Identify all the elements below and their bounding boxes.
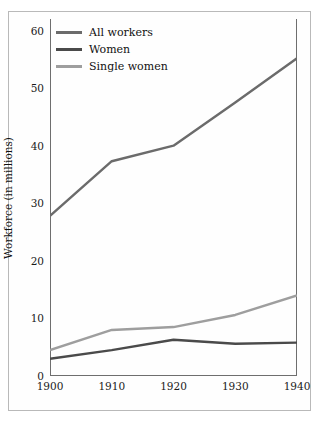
y-axis-title: Workforce (in millions) xyxy=(3,137,14,259)
x-tick-label-1900: 1900 xyxy=(37,381,64,392)
legend-item-women: Women xyxy=(56,41,206,57)
series-line-single-women xyxy=(50,295,297,350)
x-tick-label-1910: 1910 xyxy=(98,381,125,392)
y-tick-label-40: 40 xyxy=(31,141,44,152)
series-line-women xyxy=(50,340,297,359)
y-axis-tick-labels: 0102030405060 xyxy=(16,19,44,376)
x-axis-tick-labels: 19001910192019301940 xyxy=(50,381,297,397)
legend-label-all-workers: All workers xyxy=(89,27,153,38)
legend-item-single-women: Single women xyxy=(56,58,206,74)
data-series xyxy=(50,58,297,359)
series-line-all-workers xyxy=(50,58,297,216)
x-tick-label-1930: 1930 xyxy=(222,381,249,392)
legend-swatch-all-workers xyxy=(56,31,82,34)
legend-item-all-workers: All workers xyxy=(56,24,206,40)
legend-label-women: Women xyxy=(89,44,130,55)
legend-swatch-women xyxy=(56,48,82,51)
x-tick-label-1920: 1920 xyxy=(160,381,187,392)
y-tick-label-20: 20 xyxy=(31,256,44,267)
y-tick-label-50: 50 xyxy=(31,83,44,94)
y-axis-title-container: Workforce (in millions) xyxy=(0,19,16,376)
chart-figure: Workforce (in millions) 0102030405060 19… xyxy=(0,0,320,421)
legend-label-single-women: Single women xyxy=(89,61,168,72)
chart-legend: All workers Women Single women xyxy=(56,24,206,75)
y-tick-label-30: 30 xyxy=(31,198,44,209)
legend-swatch-single-women xyxy=(56,65,82,68)
y-tick-label-60: 60 xyxy=(31,26,44,37)
y-tick-label-10: 10 xyxy=(31,313,44,324)
axis-ticks xyxy=(50,31,297,376)
x-tick-label-1940: 1940 xyxy=(284,381,311,392)
